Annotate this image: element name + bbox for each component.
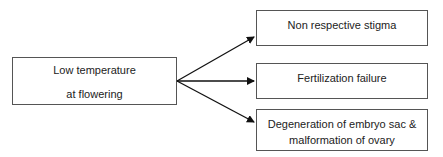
arrow-to-non-respective-stigma [177, 37, 254, 81]
connector-arrows [0, 0, 443, 157]
arrow-to-degeneration [177, 81, 254, 122]
